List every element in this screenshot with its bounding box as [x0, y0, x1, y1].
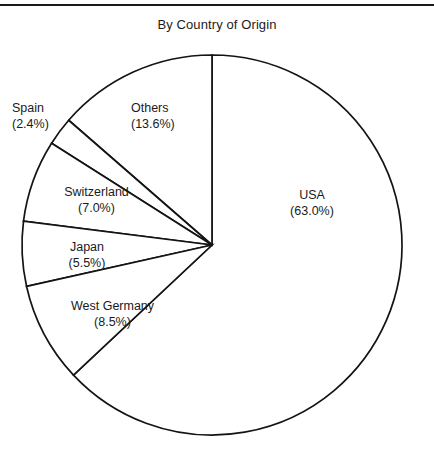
pie-label-spain-name: Spain — [12, 101, 72, 117]
pie-label-switzerland: Switzerland (7.0%) — [44, 185, 149, 216]
pie-label-others: Others (13.6%) — [131, 101, 221, 132]
pie-label-japan-percent: (5.5%) — [56, 256, 118, 272]
pie-label-west-germany-name: West Germany — [50, 299, 175, 315]
pie-label-switzerland-name: Switzerland — [44, 185, 149, 201]
pie-label-spain: Spain (2.4%) — [12, 101, 72, 132]
pie-chart-figure: By Country of Origin USA (63.0%) Others … — [0, 0, 434, 463]
pie-label-japan: Japan (5.5%) — [56, 240, 118, 271]
pie-label-spain-percent: (2.4%) — [12, 117, 72, 133]
pie-label-japan-name: Japan — [56, 240, 118, 256]
pie-label-others-percent: (13.6%) — [131, 117, 221, 133]
pie-label-usa-percent: (63.0%) — [272, 204, 352, 220]
pie-label-others-name: Others — [131, 101, 221, 117]
pie-label-usa: USA (63.0%) — [272, 188, 352, 219]
pie-label-usa-name: USA — [272, 188, 352, 204]
pie-chart-canvas — [0, 0, 434, 463]
pie-label-switzerland-percent: (7.0%) — [44, 201, 149, 217]
pie-label-west-germany-percent: (8.5%) — [50, 315, 175, 331]
pie-label-west-germany: West Germany (8.5%) — [50, 299, 175, 330]
